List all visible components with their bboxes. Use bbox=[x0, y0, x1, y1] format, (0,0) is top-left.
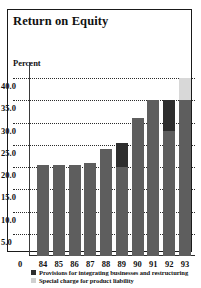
bar-column bbox=[132, 78, 144, 256]
legend-swatch-icon-provisions bbox=[31, 270, 36, 275]
legend-item-provisions: Provisions for integrating businesses an… bbox=[31, 269, 197, 276]
y-axis-tick-label: 20.0 bbox=[1, 170, 16, 180]
x-axis-tick-label: 87 bbox=[84, 259, 96, 269]
bar-column bbox=[69, 78, 81, 256]
x-axis-tick-label: 88 bbox=[100, 259, 112, 269]
bar-segment-provisions bbox=[116, 143, 128, 167]
y-axis-tick-label: 40.0 bbox=[1, 81, 16, 91]
bar-segment-base bbox=[147, 100, 159, 256]
y-axis-unit-label: Percent bbox=[13, 58, 41, 68]
bar-segment-base bbox=[132, 118, 144, 256]
x-axis-tick-label: 91 bbox=[147, 259, 159, 269]
bar-segment-special-charge bbox=[179, 78, 191, 100]
legend-swatch-icon-special-charge bbox=[31, 278, 36, 283]
bar-column bbox=[163, 78, 175, 256]
bar-segment-base bbox=[84, 163, 96, 256]
y-axis-zero-label: 0 bbox=[18, 259, 22, 269]
x-axis-tick-label: 86 bbox=[69, 259, 81, 269]
bar-series-group bbox=[37, 78, 191, 256]
bar-column bbox=[179, 78, 191, 256]
legend-item-special-charge: Special charge for product liability bbox=[31, 277, 197, 284]
bar-column bbox=[84, 78, 96, 256]
y-axis-tick-label: 10.0 bbox=[1, 215, 16, 225]
bar-segment-base bbox=[69, 165, 81, 256]
bar-segment-base bbox=[116, 167, 128, 256]
legend-label-provisions: Provisions for integrating businesses an… bbox=[39, 269, 188, 276]
bar-column bbox=[147, 78, 159, 256]
bar-segment-base bbox=[163, 131, 175, 256]
y-axis-tick-label: 25.0 bbox=[1, 148, 16, 158]
bar-column bbox=[100, 78, 112, 256]
x-axis-labels: 84858687888990919293 bbox=[37, 259, 191, 269]
bar-column bbox=[116, 78, 128, 256]
x-axis-tick-label: 90 bbox=[132, 259, 144, 269]
bar-segment-base bbox=[37, 165, 49, 256]
bar-segment-base bbox=[179, 100, 191, 256]
chart-legend: Provisions for integrating businesses an… bbox=[31, 269, 197, 285]
y-axis-line bbox=[29, 62, 30, 256]
bar-segment-base bbox=[100, 149, 112, 256]
x-axis-tick-label: 92 bbox=[163, 259, 175, 269]
y-axis-tick-label: 15.0 bbox=[1, 192, 16, 202]
x-axis-tick-label: 89 bbox=[116, 259, 128, 269]
y-axis-tick-label: 35.0 bbox=[1, 103, 16, 113]
x-axis-tick-label: 85 bbox=[53, 259, 65, 269]
plot-area: 40.035.030.025.020.015.010.05.0 bbox=[13, 78, 191, 256]
x-axis-tick-label: 93 bbox=[179, 259, 191, 269]
bar-segment-base bbox=[53, 165, 65, 256]
page-title: Return on Equity bbox=[13, 14, 108, 29]
bar-segment-provisions bbox=[163, 100, 175, 131]
x-axis-tick-label: 84 bbox=[37, 259, 49, 269]
legend-label-special-charge: Special charge for product liability bbox=[39, 277, 134, 284]
y-axis-tick-label: 5.0 bbox=[1, 237, 12, 247]
bar-column bbox=[37, 78, 49, 256]
y-axis-tick-label: 30.0 bbox=[1, 126, 16, 136]
bar-column bbox=[53, 78, 65, 256]
